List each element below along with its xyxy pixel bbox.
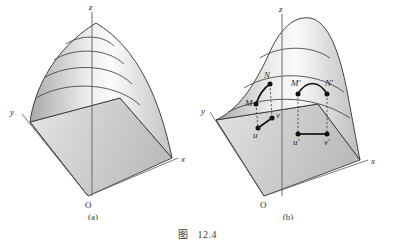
subfigure-a: z y x O (a) bbox=[0, 0, 198, 220]
point-label-v: v bbox=[276, 110, 280, 120]
point-label-N: N bbox=[263, 70, 271, 80]
point-label-up: u′ bbox=[293, 137, 301, 147]
subfigure-caption-a: (a) bbox=[88, 212, 98, 220]
point-label-Np: N′ bbox=[324, 78, 334, 88]
point-vp bbox=[325, 132, 330, 137]
axis-label-x-a: x bbox=[180, 154, 185, 164]
point-up bbox=[296, 132, 301, 137]
subfigure-b: z y x O N M v u bbox=[198, 0, 395, 220]
axis-label-z-a: z bbox=[88, 2, 93, 12]
axis-label-y-b: y bbox=[200, 106, 205, 116]
point-Mp bbox=[296, 92, 301, 97]
point-v bbox=[270, 116, 275, 121]
point-Np bbox=[325, 92, 330, 97]
axis-label-z-b: z bbox=[278, 4, 283, 14]
origin-label-a: O bbox=[85, 200, 92, 210]
point-label-Mp: M′ bbox=[290, 78, 301, 88]
origin-label-b: O bbox=[260, 200, 267, 210]
axis-label-x-b: x bbox=[370, 156, 375, 166]
point-label-vp: v′ bbox=[324, 137, 331, 147]
figure-caption: 图12.4 bbox=[0, 226, 395, 241]
subfigure-caption-b: (b) bbox=[283, 212, 294, 220]
point-label-u: u bbox=[253, 130, 258, 140]
point-M bbox=[254, 102, 259, 107]
figure-container: z y x O (a) bbox=[0, 0, 395, 245]
point-N bbox=[268, 82, 273, 87]
point-label-M: M bbox=[244, 98, 253, 108]
caption-number: 12.4 bbox=[198, 229, 218, 240]
axis-label-y-a: y bbox=[9, 107, 14, 117]
caption-label: 图 bbox=[178, 229, 189, 240]
